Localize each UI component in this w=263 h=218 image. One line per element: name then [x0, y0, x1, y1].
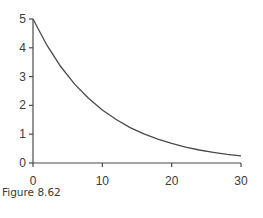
- y-tick-label: 1: [19, 127, 26, 141]
- y-tick-label: 3: [19, 70, 26, 84]
- x-tick-label: 30: [234, 174, 248, 188]
- data-line: [33, 19, 241, 156]
- y-tick-label: 5: [19, 12, 26, 26]
- x-tick-label: 10: [96, 174, 110, 188]
- y-tick-label: 0: [19, 156, 26, 170]
- figure-caption: Figure 8.62: [2, 186, 61, 198]
- x-tick-label: 20: [165, 174, 179, 188]
- y-tick-label: 2: [19, 98, 26, 112]
- axes: [33, 19, 241, 163]
- y-tick-label: 4: [19, 41, 26, 55]
- ticks: 0123450102030: [19, 12, 248, 188]
